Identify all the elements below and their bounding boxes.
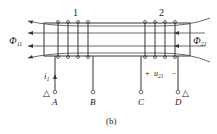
flux-lines — [28, 18, 210, 62]
flux-right-label: Φ21 — [193, 35, 207, 47]
figure-caption: (b) — [106, 116, 117, 126]
polarity-mark-d: △ — [182, 88, 189, 98]
magnetic-core — [44, 23, 190, 56]
coupled-coils-diagram: 1 2 Φ11 Φ21 i1 + u21 − △ △ A B C D (b) — [0, 0, 217, 134]
polarity-mark-a: △ — [43, 88, 50, 98]
flux-left-label: Φ11 — [9, 35, 22, 47]
current-label: i1 — [44, 71, 50, 82]
terminal-c-label: C — [138, 97, 145, 107]
voltage-label: u21 — [154, 69, 164, 79]
coil-1-label: 1 — [73, 7, 78, 18]
coil-2-label: 2 — [159, 7, 164, 18]
current-arrow-icon — [53, 74, 57, 79]
voltage-minus: − — [172, 69, 177, 78]
voltage-plus: + — [145, 69, 150, 78]
terminal-b-label: B — [90, 97, 96, 107]
terminal-a-label: A — [51, 97, 58, 107]
terminal-d-label: D — [174, 97, 182, 107]
